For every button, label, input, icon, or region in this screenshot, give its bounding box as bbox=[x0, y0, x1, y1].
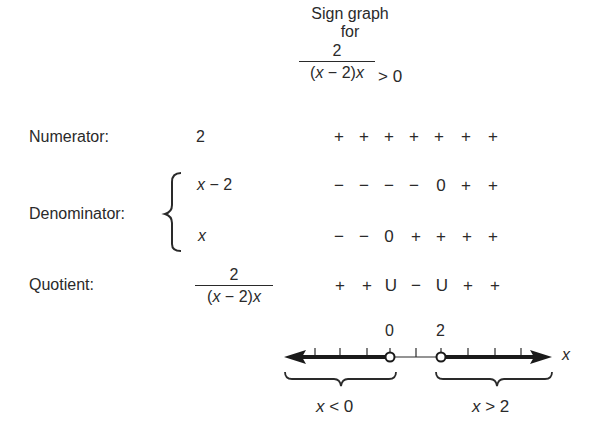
left-interval-brace-icon bbox=[285, 372, 396, 386]
number-line bbox=[0, 0, 589, 430]
right-interval-brace-icon bbox=[436, 372, 552, 386]
open-circle-2 bbox=[437, 353, 446, 362]
interval-right-label: x > 2 bbox=[472, 397, 509, 417]
open-circle-0 bbox=[386, 353, 395, 362]
interval-left-label: x < 0 bbox=[316, 397, 353, 417]
